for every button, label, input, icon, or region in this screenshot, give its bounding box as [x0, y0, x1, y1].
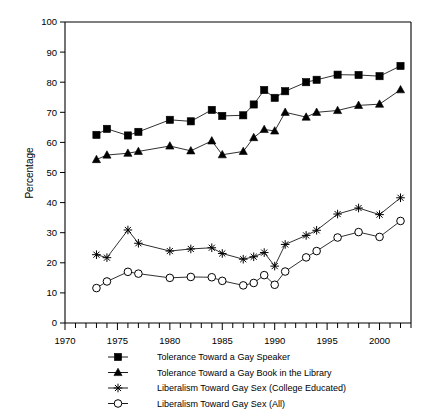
marker-circle — [302, 254, 310, 262]
marker-square — [187, 118, 194, 125]
marker-square — [261, 86, 268, 93]
data-point — [124, 226, 133, 235]
marker-square — [93, 131, 100, 138]
data-point — [93, 284, 101, 292]
chart-figure: Percentage 0102030405060708090100 197019… — [0, 0, 429, 419]
data-point — [334, 234, 342, 242]
legend-label: Liberalism Toward Gay Sex (College Educa… — [157, 383, 346, 393]
marker-circle — [124, 268, 132, 276]
data-point — [355, 71, 362, 78]
x-tick-label: 2000 — [369, 335, 390, 346]
marker-square — [397, 62, 404, 69]
data-point — [397, 62, 404, 69]
data-point — [354, 204, 363, 213]
marker-square — [334, 71, 341, 78]
data-point — [218, 249, 227, 258]
data-point — [124, 268, 132, 276]
data-point — [240, 112, 247, 119]
marker-circle — [135, 270, 143, 278]
data-point — [303, 79, 310, 86]
data-point — [334, 71, 341, 78]
data-point-open-circle — [114, 400, 122, 408]
y-tick-label: 0 — [52, 317, 57, 328]
data-point — [187, 118, 194, 125]
data-point — [239, 282, 247, 290]
data-point — [134, 239, 143, 248]
data-point — [207, 243, 216, 252]
data-point — [103, 278, 111, 286]
data-point-asterisk — [114, 384, 123, 393]
data-point — [250, 101, 257, 108]
y-tick-label: 40 — [46, 197, 57, 208]
marker-circle — [281, 268, 289, 276]
marker-circle — [260, 271, 268, 279]
marker-square — [124, 132, 131, 139]
x-tick-label: 1970 — [54, 335, 75, 346]
data-point — [313, 247, 321, 255]
data-point — [219, 112, 226, 119]
data-point — [260, 248, 269, 257]
data-point — [270, 262, 279, 271]
data-point — [260, 271, 268, 279]
marker-circle — [114, 400, 122, 408]
data-point — [166, 116, 173, 123]
data-point — [93, 131, 100, 138]
data-point — [376, 233, 384, 241]
data-point — [103, 125, 110, 132]
data-point — [271, 281, 279, 289]
y-tick-label: 100 — [41, 16, 57, 27]
marker-square — [282, 88, 289, 95]
data-point — [282, 88, 289, 95]
marker-square — [303, 79, 310, 86]
marker-square — [166, 116, 173, 123]
marker-circle — [355, 228, 363, 236]
marker-circle — [313, 247, 321, 255]
x-tick-label: 1990 — [264, 335, 285, 346]
data-point — [187, 273, 195, 281]
data-point — [313, 76, 320, 83]
y-tick-label: 30 — [46, 227, 57, 238]
y-tick-label: 70 — [46, 107, 57, 118]
y-tick-label: 20 — [46, 257, 57, 268]
marker-square — [240, 112, 247, 119]
marker-square — [313, 76, 320, 83]
marker-circle — [93, 284, 101, 292]
marker-circle — [250, 279, 258, 287]
legend-label: Liberalism Toward Gay Sex (All) — [157, 399, 285, 409]
data-point — [135, 270, 143, 278]
y-tick-label: 90 — [46, 47, 57, 58]
data-point — [281, 240, 290, 249]
data-point — [208, 273, 216, 281]
x-tick-label: 1995 — [317, 335, 338, 346]
marker-circle — [166, 274, 174, 282]
data-point — [208, 106, 215, 113]
x-tick-label: 1975 — [107, 335, 128, 346]
marker-square — [114, 353, 121, 360]
data-point-filled-square — [114, 353, 121, 360]
marker-square — [271, 94, 278, 101]
marker-square — [355, 71, 362, 78]
marker-circle — [271, 281, 279, 289]
x-tick-label: 1985 — [212, 335, 233, 346]
data-point — [135, 128, 142, 135]
data-point — [333, 210, 342, 219]
data-point — [355, 228, 363, 236]
data-point — [376, 73, 383, 80]
data-point — [397, 217, 405, 225]
data-point — [250, 279, 258, 287]
data-point — [302, 254, 310, 262]
legend-label: Tolerance Toward a Gay Speaker — [157, 352, 290, 362]
data-point — [261, 86, 268, 93]
data-point — [166, 247, 175, 256]
marker-circle — [334, 234, 342, 242]
data-point — [302, 231, 311, 240]
data-point — [103, 253, 112, 262]
marker-circle — [187, 273, 195, 281]
marker-square — [103, 125, 110, 132]
y-axis-title: Percentage — [24, 147, 35, 199]
marker-circle — [103, 278, 111, 286]
marker-square — [208, 106, 215, 113]
data-point — [92, 250, 101, 259]
marker-circle — [208, 273, 216, 281]
data-point — [396, 193, 405, 202]
